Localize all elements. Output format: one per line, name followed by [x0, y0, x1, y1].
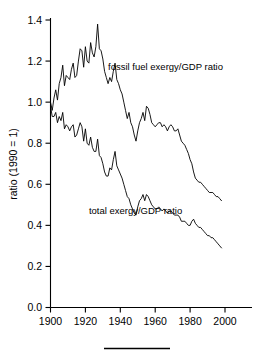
series-label-total-exergy: total exergy/GDP ratio — [89, 205, 182, 216]
chart-figure: ratio (1990 = 1) 0.00.20.40.60.81.01.21.… — [0, 0, 276, 357]
series-line-total-exergy-gdp — [51, 106, 222, 248]
y-tick-label-0.8: 0.8 — [27, 137, 42, 149]
series-label-fossil-fuel: fossil fuel exergy/GDP ratio — [108, 61, 223, 72]
y-tick-label-1.0: 1.0 — [27, 96, 42, 108]
exergy-gdp-ratio-line-chart: ratio (1990 = 1) 0.00.20.40.60.81.01.21.… — [0, 0, 276, 357]
x-tick-label-1980: 1980 — [178, 315, 202, 327]
x-tick-label-2000: 2000 — [213, 315, 237, 327]
y-tick-label-0.0: 0.0 — [27, 301, 42, 313]
y-tick-label-1.4: 1.4 — [27, 14, 42, 26]
y-tick-label-0.2: 0.2 — [27, 260, 42, 272]
x-axis-ticks: 190019201940196019802000 — [39, 308, 237, 328]
y-axis-title: ratio (1990 = 1) — [7, 128, 19, 200]
y-axis-title-text: ratio (1990 = 1) — [7, 128, 19, 200]
x-tick-label-1960: 1960 — [144, 315, 168, 327]
series-line-fossil-fuel-exergy-gdp — [51, 24, 222, 201]
x-tick-label-1920: 1920 — [74, 315, 98, 327]
x-tick-label-1940: 1940 — [109, 315, 133, 327]
y-tick-label-1.2: 1.2 — [27, 55, 42, 67]
y-axis-ticks: 0.00.20.40.60.81.01.21.4 — [27, 14, 50, 314]
x-tick-label-1900: 1900 — [39, 315, 63, 327]
y-tick-label-0.6: 0.6 — [27, 178, 42, 190]
series-annotations: fossil fuel exergy/GDP ratiototal exergy… — [89, 61, 223, 216]
y-tick-label-0.4: 0.4 — [27, 219, 42, 231]
